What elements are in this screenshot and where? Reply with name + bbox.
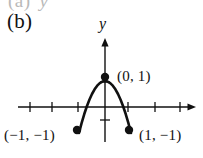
x-axis-arrowhead <box>188 103 197 110</box>
y-axis-arrowhead <box>101 38 108 47</box>
axis-group <box>18 38 196 142</box>
coordinate-plot <box>0 0 203 158</box>
point-marker-left-endpoint <box>73 126 81 134</box>
point-marker-right-endpoint <box>125 126 133 134</box>
figure-panel-b: (a)y (b) y (0, 1) (−1, −1) (1, −1) <box>0 0 203 158</box>
point-marker-vertex <box>101 73 109 81</box>
